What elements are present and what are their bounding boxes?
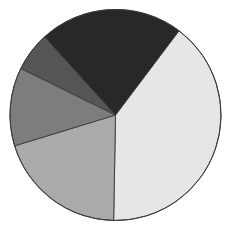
pie-slices [10, 9, 221, 220]
pie-chart [0, 0, 234, 231]
